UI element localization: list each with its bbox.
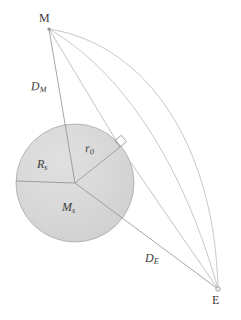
label-mass-ms-base: M <box>62 200 72 214</box>
label-distance-de-base: D <box>145 251 154 265</box>
point-e-marker <box>216 287 220 291</box>
label-mass-ms-sub: s <box>72 206 75 215</box>
label-distance-dm: DM <box>31 80 47 95</box>
label-impact-parameter-sub: 0 <box>90 147 95 156</box>
label-distance-de: DE <box>145 252 159 266</box>
label-radius-rs: Rs <box>37 158 48 172</box>
label-point-m: M <box>39 12 50 24</box>
label-distance-dm-base: D <box>31 79 40 93</box>
label-mass-ms: Ms <box>62 201 75 215</box>
label-distance-dm-sub: M <box>40 85 47 94</box>
label-radius-rs-sub: s <box>44 163 47 172</box>
label-distance-de-sub: E <box>154 257 159 266</box>
point-m-marker <box>47 27 50 30</box>
label-point-e: E <box>212 294 219 306</box>
label-impact-parameter: r0 <box>85 142 94 157</box>
diagram-canvas: M E DM DE Rs r0 Ms <box>0 0 241 320</box>
